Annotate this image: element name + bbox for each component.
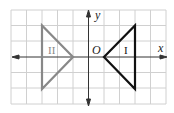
axes [12, 10, 167, 106]
origin-label: O [92, 44, 101, 56]
y-axis-up-arrow [87, 10, 91, 17]
x-axis-left-arrow [12, 55, 19, 59]
y-axis-down-arrow [87, 99, 91, 106]
coordinate-grid [0, 0, 174, 113]
triangle-II-label: II [48, 45, 55, 56]
x-axis-label: x [158, 42, 163, 54]
y-axis-label: y [95, 9, 100, 21]
triangle-I-label: I [124, 45, 128, 56]
